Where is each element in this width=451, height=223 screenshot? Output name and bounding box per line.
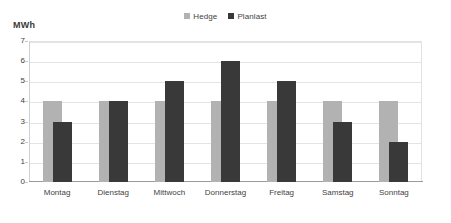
bar-planlast-sonntag[interactable] [389, 142, 408, 182]
x-tick-label-donnerstag: Donnerstag [197, 188, 253, 198]
bar-planlast-freitag[interactable] [277, 81, 296, 182]
y-tick-label: 7 [0, 37, 25, 45]
bar-chart: Hedge Planlast MWh 01234567 MontagDienst… [0, 0, 451, 223]
bar-planlast-dienstag[interactable] [109, 101, 128, 182]
y-tick-mark [25, 101, 28, 102]
y-axis-unit-label: MWh [13, 20, 35, 30]
bar-group [254, 41, 310, 182]
y-tick-mark [25, 142, 28, 143]
legend-swatch-hedge-icon [184, 13, 190, 19]
y-tick-label: 3 [0, 118, 25, 126]
bar-group [366, 41, 422, 182]
bar-group [85, 41, 141, 182]
y-tick-label: 6 [0, 57, 25, 65]
y-tick-mark [25, 61, 28, 62]
y-tick-label: 1 [0, 158, 25, 166]
bar-planlast-mittwoch[interactable] [165, 81, 184, 182]
x-axis-labels: MontagDienstagMittwochDonnerstagFreitagS… [29, 188, 422, 202]
bar-planlast-donnerstag[interactable] [221, 61, 240, 182]
x-tick-label-samstag: Samstag [310, 188, 366, 198]
x-tick-label-mittwoch: Mittwoch [141, 188, 197, 198]
legend-swatch-planlast-icon [228, 13, 234, 19]
bar-group [197, 41, 253, 182]
x-tick-label-dienstag: Dienstag [85, 188, 141, 198]
y-tick-mark [25, 41, 28, 42]
x-tick-label-sonntag: Sonntag [366, 188, 422, 198]
legend-label-planlast: Planlast [237, 12, 266, 21]
y-axis-ticks: 01234567 [0, 41, 25, 182]
x-tick-label-freitag: Freitag [254, 188, 310, 198]
bar-planlast-samstag[interactable] [333, 122, 352, 182]
bars-layer [29, 41, 422, 182]
legend-label-hedge: Hedge [193, 12, 217, 21]
y-tick-mark [25, 122, 28, 123]
legend-entry-planlast[interactable]: Planlast [228, 12, 266, 21]
legend-entry-hedge[interactable]: Hedge [184, 12, 217, 21]
y-tick-label: 0 [0, 178, 25, 186]
bar-group [141, 41, 197, 182]
bar-group [310, 41, 366, 182]
chart-legend: Hedge Planlast [0, 9, 451, 23]
y-tick-label: 4 [0, 97, 25, 105]
y-tick-label: 5 [0, 77, 25, 85]
bar-group [29, 41, 85, 182]
y-tick-mark [25, 81, 28, 82]
bar-planlast-montag[interactable] [53, 122, 72, 182]
x-tick-label-montag: Montag [29, 188, 85, 198]
y-tick-mark [25, 182, 28, 183]
y-tick-mark [25, 162, 28, 163]
y-tick-label: 2 [0, 138, 25, 146]
